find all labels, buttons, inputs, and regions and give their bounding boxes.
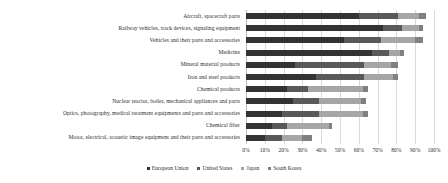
category-label: Medicine [218, 49, 240, 56]
bar-row [246, 135, 434, 141]
bar-segment [316, 74, 365, 80]
bar-segment [389, 50, 400, 56]
bar-segment [364, 74, 392, 80]
bar-segment [329, 123, 333, 129]
value-tick-label: 90% [410, 146, 420, 154]
category-label: Mineral material products [181, 61, 240, 68]
legend-swatch-icon [147, 167, 150, 170]
bar-segment [246, 25, 383, 31]
bar-segment [363, 86, 369, 92]
bar-segment [308, 86, 363, 92]
bar-segment [383, 25, 402, 31]
bar-segment [400, 50, 404, 56]
bar-segment [246, 111, 282, 117]
category-label: Vehicles and their parts and accessories [150, 37, 240, 44]
bar-segment [361, 98, 367, 104]
bar-segment [381, 37, 415, 43]
bar-row [246, 25, 434, 31]
chart-legend: European UnionUnited StatesJapanSouth Ko… [0, 165, 448, 172]
value-tick-label: 60% [354, 146, 364, 154]
bar-segment [246, 62, 295, 68]
bar-segment [359, 13, 398, 19]
bar-rows [246, 10, 434, 144]
value-tick-label: 10% [260, 146, 270, 154]
bar-segment [402, 25, 419, 31]
value-tick-label: 20% [278, 146, 288, 154]
value-tick-label: 80% [391, 146, 401, 154]
category-axis-labels: Aircraft, spacecraft partsRailway vehicl… [0, 10, 243, 144]
value-tick-label: 70% [372, 146, 382, 154]
bar-segment [246, 13, 359, 19]
bar-segment [246, 37, 344, 43]
category-label: Chemical fiber [206, 122, 240, 129]
bar-row [246, 37, 434, 43]
legend-item[interactable]: United States [197, 165, 232, 172]
value-axis-tick-labels: 0%10%20%30%40%50%60%70%80%90%100% [246, 146, 434, 158]
bar-segment [246, 50, 372, 56]
bar-segment [372, 50, 389, 56]
legend-item[interactable]: Japan [241, 165, 259, 172]
category-label: Railway vehicles, track devices, signali… [119, 25, 240, 32]
bar-segment [398, 13, 419, 19]
bar-segment [391, 62, 399, 68]
bar-row [246, 111, 434, 117]
bar-segment [319, 98, 360, 104]
category-label: Optics, photography, medical treatment e… [63, 110, 240, 117]
legend-swatch-icon [197, 167, 200, 170]
category-label: Motor, electrical, acoustic image equipm… [69, 134, 240, 141]
value-tick-label: 50% [335, 146, 345, 154]
bar-segment [282, 111, 320, 117]
value-tick-label: 100% [427, 146, 440, 154]
bar-row [246, 13, 434, 19]
bar-segment [293, 98, 319, 104]
legend-swatch-icon [268, 167, 271, 170]
bar-segment [282, 135, 303, 141]
legend-label: United States [202, 165, 232, 172]
legend-item[interactable]: European Union [147, 165, 189, 172]
bar-row [246, 62, 434, 68]
legend-label: Japan [246, 165, 259, 172]
bar-segment [265, 135, 282, 141]
bar-row [246, 86, 434, 92]
bar-segment [393, 74, 399, 80]
legend-label: European Union [152, 165, 189, 172]
gridline [434, 10, 435, 144]
value-tick-label: 0% [242, 146, 249, 154]
bar-row [246, 50, 434, 56]
bar-segment [419, 13, 427, 19]
bar-segment [246, 135, 265, 141]
bar-segment [287, 123, 328, 129]
category-label: Nuclear reactor, boiler, mechanical appl… [112, 98, 240, 105]
bar-segment [246, 123, 272, 129]
bar-segment [419, 25, 423, 31]
category-label: Aircraft, spacecraft parts [183, 13, 240, 20]
legend-item[interactable]: South Korea [268, 165, 301, 172]
bar-segment [246, 86, 287, 92]
bar-segment [415, 37, 423, 43]
category-label: Chemical products [197, 86, 240, 93]
stacked-bar-chart: Aircraft, spacecraft partsRailway vehicl… [0, 0, 448, 183]
category-label: Iron and steel products [188, 74, 240, 81]
bar-segment [344, 37, 382, 43]
legend-label: South Korea [273, 165, 301, 172]
bar-segment [272, 123, 287, 129]
bar-segment [363, 111, 369, 117]
bar-segment [295, 62, 365, 68]
bar-segment [302, 135, 311, 141]
legend-swatch-icon [241, 167, 244, 170]
bar-row [246, 98, 434, 104]
bar-row [246, 123, 434, 129]
bar-segment [246, 98, 293, 104]
bar-segment [319, 111, 362, 117]
value-tick-label: 30% [297, 146, 307, 154]
value-tick-label: 40% [316, 146, 326, 154]
bar-segment [287, 86, 308, 92]
bar-segment [246, 74, 316, 80]
bar-row [246, 74, 434, 80]
bar-segment [364, 62, 390, 68]
plot-area [246, 10, 434, 144]
